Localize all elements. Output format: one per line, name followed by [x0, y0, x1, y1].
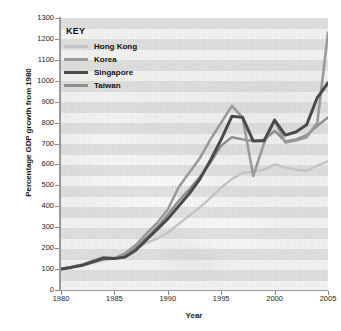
legend-swatch-singapore — [64, 71, 88, 74]
legend-item-korea[interactable]: Korea — [64, 53, 168, 66]
series-line-singapore — [61, 83, 328, 269]
x-tick-mark — [275, 291, 276, 295]
y-tick-mark — [55, 144, 59, 145]
y-tick-mark — [55, 39, 59, 40]
x-tick-label: 1980 — [41, 294, 81, 303]
y-tick-mark — [55, 164, 59, 165]
legend-label-singapore: Singapore — [94, 68, 133, 77]
y-tick-mark — [55, 123, 59, 124]
legend-swatch-hong-kong — [64, 45, 88, 48]
legend-swatch-korea — [64, 58, 88, 61]
legend-item-singapore[interactable]: Singapore — [64, 66, 168, 79]
x-tick-mark — [114, 291, 115, 295]
y-tick-mark — [55, 248, 59, 249]
x-tick-label: 2005 — [308, 294, 341, 303]
x-tick-label: 1990 — [148, 294, 188, 303]
legend-item-taiwan[interactable]: Taiwan — [64, 79, 168, 92]
legend-title: KEY — [66, 26, 168, 36]
x-tick-label: 1985 — [94, 294, 134, 303]
series-line-hong-kong — [61, 161, 328, 269]
x-tick-label: 1995 — [201, 294, 241, 303]
x-tick-mark — [221, 291, 222, 295]
y-tick-mark — [55, 290, 59, 291]
y-tick-mark — [55, 269, 59, 270]
series-line-taiwan — [61, 117, 328, 269]
y-tick-mark — [55, 60, 59, 61]
legend-label-korea: Korea — [94, 55, 117, 64]
x-tick-label: 2000 — [255, 294, 295, 303]
y-tick-mark — [55, 81, 59, 82]
legend: KEY Hong Kong Korea Singapore Taiwan — [64, 26, 168, 92]
y-tick-mark — [55, 102, 59, 103]
x-tick-mark — [168, 291, 169, 295]
legend-label-hong-kong: Hong Kong — [94, 42, 137, 51]
x-tick-mark — [328, 291, 329, 295]
y-tick-mark — [55, 185, 59, 186]
y-tick-mark — [55, 227, 59, 228]
y-tick-mark — [55, 206, 59, 207]
y-tick-mark — [55, 18, 59, 19]
legend-item-hong-kong[interactable]: Hong Kong — [64, 40, 168, 53]
legend-label-taiwan: Taiwan — [94, 81, 121, 90]
legend-swatch-taiwan — [64, 84, 88, 87]
x-tick-mark — [61, 291, 62, 295]
